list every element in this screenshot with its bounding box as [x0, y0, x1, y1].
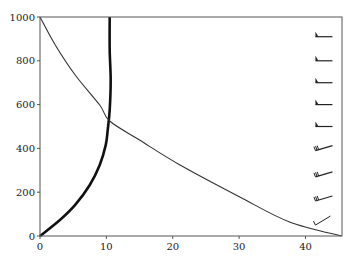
- y-tick-label: 0: [29, 231, 35, 242]
- plot-frame: [40, 17, 342, 236]
- wind-barb: [315, 122, 332, 127]
- x-tick-label: 30: [233, 241, 246, 252]
- y-axis: 02004006008001000: [10, 12, 40, 242]
- wind-barb: [314, 172, 333, 177]
- wind-barb: [315, 56, 332, 61]
- y-tick-label: 1000: [10, 12, 35, 23]
- chart: 010203040 02004006008001000: [0, 0, 356, 265]
- wind-barb: [315, 78, 332, 83]
- wind-barb: [315, 100, 332, 105]
- y-tick-label: 400: [16, 143, 35, 154]
- thin-curve: [40, 17, 341, 236]
- y-tick-label: 800: [16, 55, 35, 66]
- y-tick-label: 600: [16, 99, 35, 110]
- x-axis: 010203040: [37, 236, 312, 252]
- plot-series: [40, 17, 341, 236]
- wind-barb: [315, 32, 332, 37]
- x-tick-label: 0: [37, 241, 43, 252]
- wind-barb: [313, 216, 330, 225]
- wind-barbs: [313, 32, 332, 225]
- x-tick-label: 20: [166, 241, 179, 252]
- x-tick-label: 10: [100, 241, 113, 252]
- wind-barb: [314, 196, 333, 201]
- wind-barb: [314, 146, 333, 151]
- y-tick-label: 200: [16, 187, 35, 198]
- x-tick-label: 40: [299, 241, 312, 252]
- bold-curve: [40, 17, 111, 236]
